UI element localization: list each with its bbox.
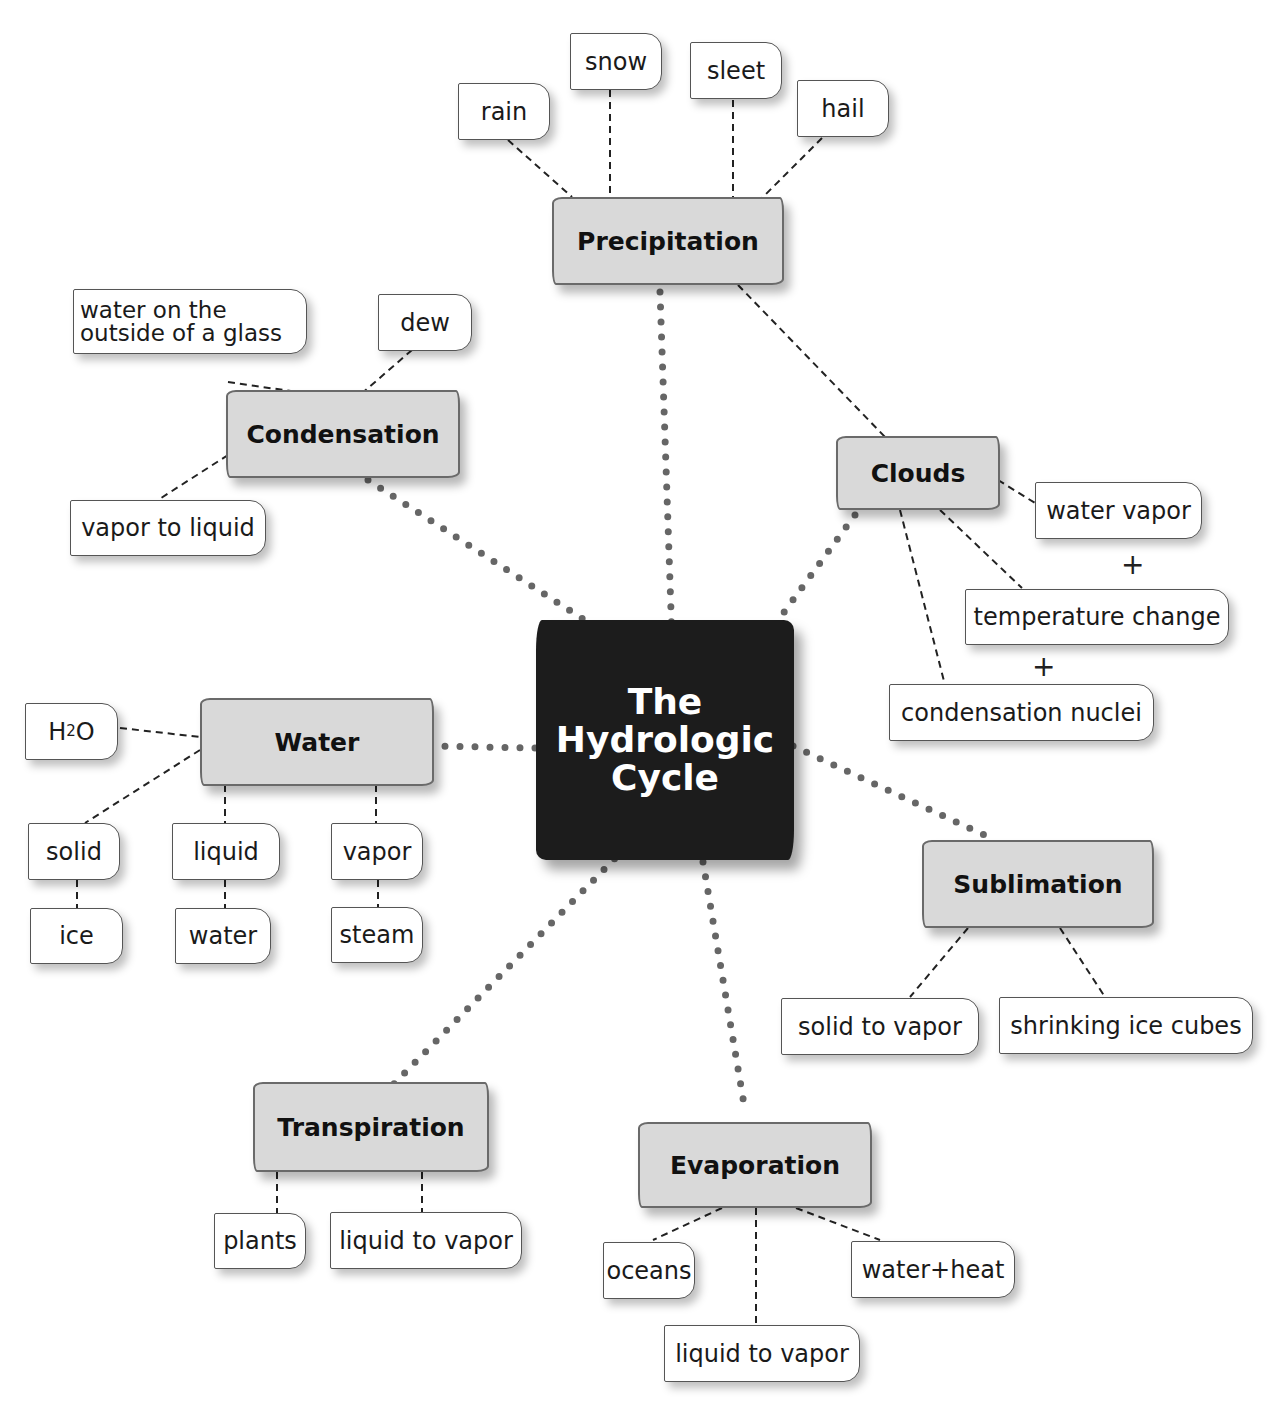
- plus-operator-2: +: [1032, 650, 1055, 683]
- leaf-h2o: H2O: [25, 703, 118, 760]
- center-line-3: Cycle: [611, 759, 719, 797]
- node-sublimation: Sublimation: [922, 840, 1154, 928]
- leaf-solid-to-vapor: solid to vapor: [781, 998, 979, 1055]
- leaf-sleet: sleet: [690, 42, 782, 99]
- node-condensation: Condensation: [226, 390, 460, 478]
- leaf-water-on-glass-line-1: water on the: [80, 299, 227, 322]
- leaf-dew: dew: [378, 294, 472, 351]
- center-node-hydrologic-cycle: The Hydrologic Cycle: [536, 620, 794, 860]
- h2o-h: H: [48, 720, 66, 744]
- leaf-rain: rain: [458, 83, 550, 140]
- leaf-water-on-glass-line-2: outside of a glass: [80, 322, 282, 345]
- leaf-hail: hail: [797, 80, 889, 137]
- leaf-solid: solid: [28, 823, 120, 880]
- leaf-evaporation-liquid-to-vapor: liquid to vapor: [664, 1325, 860, 1382]
- leaf-oceans: oceans: [603, 1242, 695, 1299]
- leaf-water: water: [175, 908, 271, 964]
- node-water: Water: [200, 698, 434, 786]
- h2o-o: O: [76, 720, 95, 744]
- leaf-vapor: vapor: [331, 823, 423, 880]
- h2o-subscript: 2: [66, 724, 76, 739]
- leaf-steam: steam: [331, 907, 423, 963]
- leaf-temperature-change: temperature change: [965, 589, 1229, 645]
- leaf-water-vapor: water vapor: [1035, 482, 1202, 539]
- leaf-condensation-nuclei: condensation nuclei: [889, 684, 1154, 741]
- leaf-plants: plants: [214, 1213, 306, 1269]
- leaf-snow: snow: [570, 33, 662, 90]
- leaf-ice: ice: [30, 908, 123, 964]
- leaf-transpiration-liquid-to-vapor: liquid to vapor: [330, 1212, 522, 1269]
- plus-operator-1: +: [1121, 548, 1144, 581]
- leaf-vapor-to-liquid: vapor to liquid: [70, 500, 266, 556]
- node-clouds: Clouds: [836, 436, 1000, 510]
- center-line-2: Hydrologic: [556, 721, 774, 759]
- node-precipitation: Precipitation: [552, 197, 784, 285]
- center-line-1: The: [628, 683, 703, 721]
- leaf-shrinking-ice-cubes: shrinking ice cubes: [999, 997, 1253, 1054]
- leaf-water-plus-heat: water+heat: [851, 1241, 1015, 1298]
- leaf-water-on-glass: water on the outside of a glass: [73, 289, 307, 354]
- node-evaporation: Evaporation: [638, 1122, 872, 1208]
- node-transpiration: Transpiration: [253, 1082, 489, 1172]
- leaf-liquid: liquid: [172, 823, 280, 880]
